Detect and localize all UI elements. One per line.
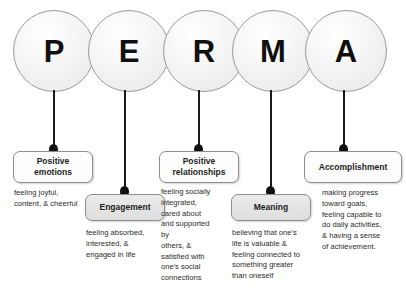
connector-line-meaning: [270, 90, 272, 192]
label-box-positive-relationships[interactable]: Positive relationships: [159, 151, 239, 183]
label-box-accomplishment[interactable]: Accomplishment: [304, 151, 402, 183]
circle-letter-m: M: [260, 36, 286, 67]
connector-line-positive-relationships: [198, 90, 200, 150]
label-text-meaning: Meaning: [254, 202, 288, 213]
description-positive-emotions: feeling joyful, content, & cheerful: [14, 188, 98, 210]
label-text-accomplishment: Accomplishment: [319, 162, 388, 173]
circle-letter-a: A: [335, 36, 357, 67]
circle-letter-e: E: [119, 36, 140, 67]
description-meaning: believing that one's life is valuable & …: [232, 228, 310, 282]
circle-letter-p: P: [44, 36, 65, 67]
circle-a: A: [305, 10, 387, 92]
label-text-positive-emotions: Positive emotions: [18, 156, 88, 177]
connector-line-engagement: [124, 90, 126, 192]
label-text-engagement: Engagement: [99, 202, 150, 213]
label-text-positive-relationships: Positive relationships: [164, 156, 234, 177]
circle-e: E: [88, 10, 170, 92]
circle-m: M: [232, 10, 314, 92]
label-box-positive-emotions[interactable]: Positive emotions: [13, 151, 93, 183]
circle-letter-r: R: [193, 36, 215, 67]
description-accomplishment: making progress toward goals, feeling ca…: [322, 188, 404, 253]
perma-diagram: P E R M A Positive emotions Engagement P…: [0, 0, 406, 295]
description-engagement: feeling absorbed, interested, & engaged …: [86, 228, 168, 260]
circle-p: P: [13, 10, 95, 92]
label-box-meaning[interactable]: Meaning: [231, 194, 311, 221]
connector-line-positive-emotions: [53, 90, 55, 150]
connector-line-accomplishment: [343, 90, 345, 150]
description-positive-relationships: feeling socially integrated, cared about…: [161, 187, 223, 284]
